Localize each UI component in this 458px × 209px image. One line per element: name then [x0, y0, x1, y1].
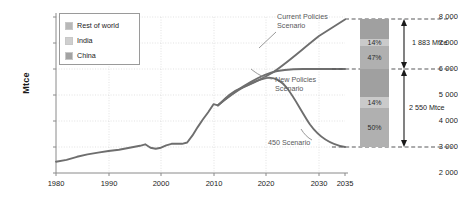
- x-tick-2020: 2020: [246, 180, 286, 188]
- gap-bar-upper-label-india: 14%: [367, 39, 381, 46]
- gap-bar-lower-segment-china: 50%: [360, 108, 389, 147]
- legend-swatch-rest-of-world: [65, 22, 73, 30]
- annotation-new-policies: New Policies Scenario: [275, 75, 316, 93]
- legend-label-china: China: [77, 52, 96, 60]
- x-tick-2000: 2000: [141, 180, 181, 188]
- legend-item-china: China: [65, 48, 139, 63]
- gap-arrow-upper: [401, 19, 407, 69]
- legend-label-india: India: [77, 37, 93, 45]
- series-line-historical: [56, 104, 218, 162]
- gap-bar-lower-label-india: 14%: [367, 99, 381, 106]
- legend: Rest of world India China: [59, 13, 140, 65]
- legend-swatch-india: [65, 37, 73, 45]
- gap-bar-upper-segment-china: 47%: [360, 46, 389, 70]
- annotation-new-policies-line2: Scenario: [275, 84, 316, 93]
- annotation-current-policies: Current Policies Scenario: [277, 12, 328, 30]
- legend-item-rest-of-world: Rest of world: [65, 18, 139, 33]
- annotation-new-policies-line1: New Policies: [275, 75, 316, 84]
- gap-label-upper: 1 883 Mtce: [412, 39, 448, 47]
- gap-bar-lower-segment-rest-of-world: [360, 69, 389, 97]
- legend-item-india: India: [65, 33, 139, 48]
- gap-bar-lower: 14% 50%: [360, 69, 389, 147]
- legend-label-rest-of-world: Rest of world: [77, 22, 119, 30]
- gap-bar-upper-label-china: 47%: [367, 54, 381, 61]
- annotation-current-policies-line2: Scenario: [277, 21, 328, 30]
- annotation-current-policies-line1: Current Policies: [277, 12, 328, 21]
- gap-bar-lower-label-china: 50%: [367, 124, 381, 131]
- x-tick-1990: 1990: [89, 180, 129, 188]
- legend-swatch-china: [65, 52, 73, 60]
- chart-container: Mtce 8 000 7 000 6 000 5 000 4 000 3 000…: [0, 0, 458, 209]
- gap-bar-upper-segment-india: 14%: [360, 39, 389, 46]
- x-tick-2010: 2010: [194, 180, 234, 188]
- gap-bar-upper: 14% 47%: [360, 19, 389, 69]
- x-tick-1980: 1980: [36, 180, 76, 188]
- gap-bar-upper-segment-rest-of-world: [360, 19, 389, 39]
- annotation-450-scenario-line1: 450 Scenario: [268, 138, 310, 147]
- gap-label-lower: 2 550 Mtce: [409, 104, 445, 112]
- gap-bar-lower-segment-india: 14%: [360, 97, 389, 108]
- leader-line-current-policies: [259, 32, 276, 48]
- annotation-450-scenario: 450 Scenario: [268, 138, 310, 147]
- x-tick-2035: 2035: [325, 180, 365, 188]
- gap-arrow-lower: [401, 69, 407, 147]
